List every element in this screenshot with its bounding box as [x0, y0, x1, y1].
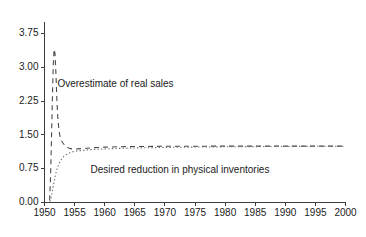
- x-axis-ticks: 1950195519601965197019751980198519901995…: [33, 203, 357, 218]
- x-tick-label: 1980: [214, 207, 237, 218]
- x-tick-label: 1995: [304, 207, 327, 218]
- x-tick-label: 2000: [334, 207, 357, 218]
- chart-annotations: Overestimate of real salesDesired reduct…: [57, 78, 269, 175]
- x-tick-label: 1965: [124, 207, 147, 218]
- y-axis-ticks: 0.000.751.502.253.003.75: [19, 27, 44, 207]
- x-tick-label: 1970: [154, 207, 177, 218]
- x-tick-label: 1950: [33, 207, 56, 218]
- chart-annotation-label: Overestimate of real sales: [57, 78, 173, 89]
- chart-figure: 0.000.751.502.253.003.75 195019551960196…: [0, 0, 366, 237]
- y-tick-label: 0.00: [19, 196, 39, 207]
- x-tick-label: 1985: [244, 207, 267, 218]
- chart-canvas: 0.000.751.502.253.003.75 195019551960196…: [0, 0, 366, 237]
- x-tick-label: 1960: [94, 207, 117, 218]
- data-series-group: [50, 49, 346, 201]
- chart-annotation-label: Desired reduction in physical inventorie…: [90, 164, 269, 175]
- y-tick-label: 0.75: [19, 162, 39, 173]
- x-tick-label: 1975: [184, 207, 207, 218]
- y-tick-label: 3.75: [19, 27, 39, 38]
- series-line: [50, 49, 346, 200]
- y-tick-label: 3.00: [19, 61, 39, 72]
- x-tick-label: 1955: [63, 207, 86, 218]
- x-tick-label: 1990: [274, 207, 297, 218]
- y-tick-label: 2.25: [19, 95, 39, 106]
- y-tick-label: 1.50: [19, 129, 39, 140]
